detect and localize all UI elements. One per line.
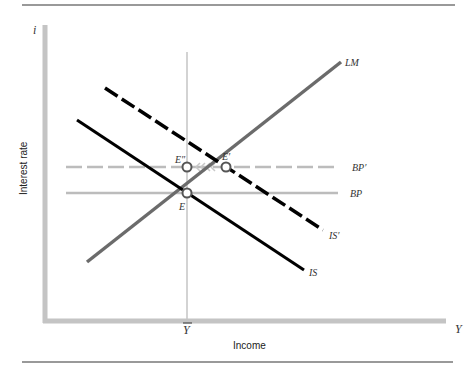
is-prime-label: IS′ [328,230,340,241]
bp-label: BP [350,188,362,199]
x-axis-label: Income [233,340,266,351]
e-label: E [178,201,185,212]
x-axis-symbol: Y [455,322,463,336]
bp-prime-label: BP′ [352,162,367,173]
e-double-prime-label: E″ [174,154,186,165]
ybar-tick-label: Y [183,323,191,337]
point-e [183,189,192,198]
chart: i Y Y Income Interest rate LM IS IS′ BP′… [0,0,468,368]
lm-curve [87,62,341,262]
e-prime-label: E′ [221,151,231,162]
point-e-prime [222,163,231,172]
y-axis-label: Interest rate [18,141,29,195]
is-label: IS [308,267,317,278]
y-axis-symbol: i [33,23,36,37]
lm-label: LM [344,57,360,68]
